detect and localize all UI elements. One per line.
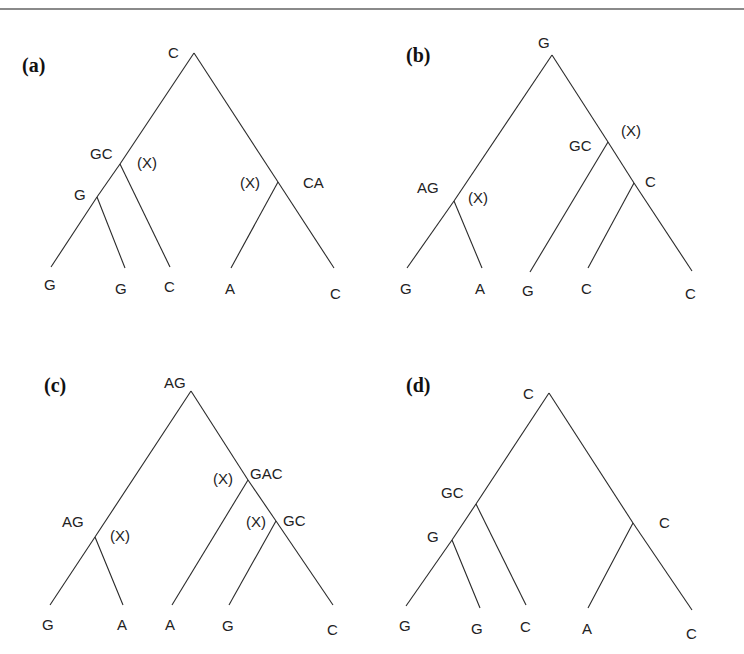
leaf-state-label: C <box>686 625 697 642</box>
leaf-state-label: G <box>44 276 56 293</box>
leaf-state-label: C <box>520 618 531 635</box>
leaf-state-label: A <box>117 616 127 633</box>
panel-label: (b) <box>406 44 430 67</box>
tree-branch <box>120 53 194 164</box>
tree-branch <box>633 523 692 610</box>
tree-branch <box>406 540 452 606</box>
tree-branch <box>172 480 248 605</box>
tree-branch <box>552 55 608 142</box>
internal-node-state-label: G <box>427 528 439 545</box>
tree-branch <box>229 521 276 605</box>
change-marker-label: (X) <box>621 122 641 139</box>
panel-label: (d) <box>406 374 430 397</box>
internal-node-state-label: GC <box>90 145 113 162</box>
leaf-state-label: G <box>42 616 54 633</box>
tree-panel-b: (b)GAGGCCGAGCC(X)(X) <box>400 34 696 302</box>
tree-branch <box>97 164 120 197</box>
leaf-state-label: G <box>471 620 483 637</box>
tree-branch <box>95 391 191 537</box>
tree-panel-a: (a)CGCGCAGGCAC(X)(X) <box>22 44 341 302</box>
internal-node-state-label: CA <box>303 174 324 191</box>
change-marker-label: (X) <box>110 527 130 544</box>
phylogenetic-tree-figure: (a)CGCGCAGGCAC(X)(X)(b)GAGGCCGAGCC(X)(X)… <box>0 0 744 654</box>
leaf-state-label: G <box>522 282 534 299</box>
tree-branch <box>634 183 692 271</box>
tree-branch <box>588 523 633 608</box>
internal-node-state-label: C <box>523 385 534 402</box>
tree-branch <box>454 55 552 201</box>
tree-panel-c: (c)AGAGGACGCGAAGC(X)(X)(X) <box>42 374 338 638</box>
leaf-state-label: G <box>222 617 234 634</box>
tree-branch <box>194 53 278 182</box>
internal-node-state-label: G <box>538 34 550 51</box>
panel-label: (c) <box>44 374 66 397</box>
tree-branch <box>276 521 333 605</box>
tree-branch <box>476 504 526 605</box>
leaf-state-label: A <box>475 280 485 297</box>
trees-canvas: (a)CGCGCAGGCAC(X)(X)(b)GAGGCCGAGCC(X)(X)… <box>0 0 744 654</box>
tree-branch <box>191 391 248 480</box>
leaf-state-label: C <box>685 285 696 302</box>
leaf-state-label: A <box>165 616 175 633</box>
internal-node-state-label: GC <box>283 512 306 529</box>
tree-branch <box>120 164 170 267</box>
tree-branch <box>97 197 125 268</box>
change-marker-label: (X) <box>246 513 266 530</box>
tree-branch <box>407 201 454 268</box>
leaf-state-label: C <box>581 280 592 297</box>
tree-branch <box>50 537 95 605</box>
internal-node-state-label: AG <box>62 513 84 530</box>
tree-branch <box>452 540 480 608</box>
leaf-state-label: G <box>400 280 412 297</box>
tree-branch <box>476 393 549 504</box>
tree-branch <box>278 182 334 268</box>
internal-node-state-label: C <box>168 44 179 61</box>
leaf-state-label: A <box>582 620 592 637</box>
tree-branch <box>549 393 633 523</box>
tree-branch <box>608 142 634 183</box>
leaf-state-label: C <box>330 285 341 302</box>
tree-panel-d: (d)CGCGCGGCAC <box>399 374 697 642</box>
internal-node-state-label: AG <box>417 179 439 196</box>
panel-label: (a) <box>22 54 45 77</box>
tree-branch <box>51 197 97 267</box>
change-marker-label: (X) <box>468 189 488 206</box>
internal-node-state-label: GC <box>441 484 464 501</box>
internal-node-state-label: C <box>659 514 670 531</box>
tree-branch <box>454 201 482 268</box>
leaf-state-label: C <box>164 278 175 295</box>
change-marker-label: (X) <box>240 174 260 191</box>
change-marker-label: (X) <box>213 470 233 487</box>
leaf-state-label: G <box>115 280 127 297</box>
tree-branch <box>231 182 278 268</box>
tree-branch <box>452 504 476 540</box>
change-marker-label: (X) <box>137 154 157 171</box>
internal-node-state-label: AG <box>164 374 186 391</box>
leaf-state-label: A <box>225 280 235 297</box>
internal-node-state-label: C <box>645 173 656 190</box>
leaf-state-label: C <box>327 621 338 638</box>
tree-branch <box>95 537 123 605</box>
leaf-state-label: G <box>399 617 411 634</box>
internal-node-state-label: GC <box>569 137 592 154</box>
tree-branch <box>588 183 634 268</box>
internal-node-state-label: GAC <box>250 465 283 482</box>
internal-node-state-label: G <box>74 186 86 203</box>
